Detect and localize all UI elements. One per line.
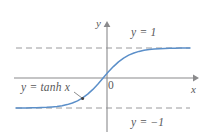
x-axis-label: x xyxy=(191,84,196,95)
tanh-graph-figure: y = 1 y = −1 y = tanh x 0 y x xyxy=(0,0,207,140)
curve-label-leader-line xyxy=(74,92,82,98)
y-axis-label: y xyxy=(96,18,101,29)
plot-canvas xyxy=(0,0,207,140)
curve-label-leader-dot xyxy=(81,97,84,100)
asymptote-upper-label: y = 1 xyxy=(131,27,156,39)
curve-equation-label: y = tanh x xyxy=(21,82,70,94)
x-axis-arrowhead xyxy=(193,75,199,82)
origin-label: 0 xyxy=(108,80,114,92)
asymptote-lower-label: y = −1 xyxy=(131,117,164,129)
y-axis-arrowhead xyxy=(104,21,111,27)
